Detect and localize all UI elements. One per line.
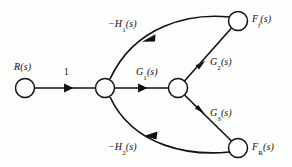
edge-label-H2: −H2(s) [108, 142, 137, 152]
node-label-FR-tail: (s) [263, 141, 274, 152]
edge-label-G3-sub: 3 [217, 115, 221, 123]
edge-label-G2-tail: (s) [221, 56, 232, 67]
signal-flow-graph-figure: R(s) Ff(s) FR(s) 1 G1(s) G2(s) G3(s) −H1… [0, 0, 292, 167]
edge-label-G1: G1(s) [136, 67, 158, 77]
node-label-FR: FR(s) [252, 142, 274, 152]
edge-label-H2-sub: 2 [122, 149, 126, 157]
edge-G3 [185, 95, 232, 141]
edge-label-G3-tail: (s) [221, 107, 232, 118]
edge-label-G2-sub: 2 [217, 64, 221, 72]
edge-label-G1-tail: (s) [147, 66, 158, 77]
node-label-R-tail: (s) [20, 61, 31, 72]
edge-G1-arrowhead [138, 84, 148, 93]
edge-label-H1-sub: 1 [122, 26, 126, 34]
edge-G3-line [185, 95, 232, 141]
node-Ff [229, 12, 248, 31]
edge-label-H2-tail: (s) [126, 141, 137, 152]
edge-input-gain [35, 84, 96, 93]
node-R [16, 79, 35, 98]
edge-input-gain-arrowhead [64, 84, 74, 93]
edge-label-H2-main: −H [108, 141, 122, 152]
edge-G2 [185, 28, 232, 81]
edge-label-G1-sub: 1 [143, 74, 147, 82]
node-label-Ff-sub: f [258, 21, 260, 29]
graph-canvas [0, 0, 292, 167]
node-junction-right [169, 79, 188, 98]
edge-label-H1-tail: (s) [126, 18, 137, 29]
edge-G1 [115, 84, 169, 93]
edge-label-G3: G3(s) [210, 108, 232, 118]
edge-label-H1: −H1(s) [108, 19, 137, 29]
node-label-Ff: Ff(s) [252, 14, 271, 24]
edge-label-input-gain: 1 [64, 68, 69, 78]
node-junction-left [96, 79, 115, 98]
node-label-FR-sub: R [258, 149, 263, 157]
edge-G2-line [185, 28, 232, 81]
node-label-Ff-tail: (s) [260, 13, 271, 24]
edge-label-H1-main: −H [108, 18, 122, 29]
edge-label-G2: G2(s) [210, 57, 232, 67]
node-label-R: R(s) [14, 62, 31, 72]
node-FR [229, 139, 248, 158]
edge-label-input-gain-main: 1 [64, 67, 69, 77]
